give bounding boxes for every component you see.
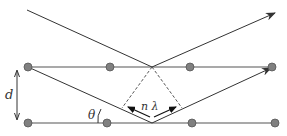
incident-ray-top — [27, 10, 152, 67]
reflected-ray-top — [152, 13, 275, 67]
angle-arc — [98, 109, 101, 123]
path-difference-label: n λ — [141, 100, 159, 113]
spacing-label: d — [5, 87, 13, 102]
atom — [24, 119, 32, 127]
angle-label: θ — [88, 108, 96, 122]
atom — [268, 63, 276, 71]
atom — [271, 119, 279, 127]
reflected-ray-bottom — [152, 68, 271, 123]
atom — [186, 63, 194, 71]
atom — [188, 119, 196, 127]
atom — [106, 63, 114, 71]
bragg-diagram: d θ n λ — [0, 0, 287, 136]
atom — [103, 119, 111, 127]
atom — [24, 63, 32, 71]
